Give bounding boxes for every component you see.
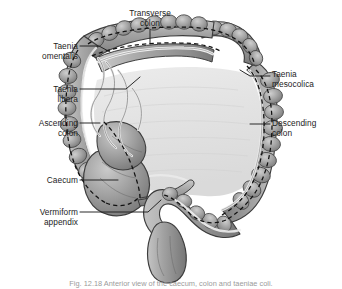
label-taenia-omentalis-line2: omentalis [42, 51, 78, 61]
label-taenia-libera: Taenialibera [6, 84, 78, 105]
label-vermiform-appendix: Vermiformappendix [2, 207, 78, 228]
label-ascending-colon-line1: Ascending [39, 118, 78, 128]
label-descending-colon-line2: colon [272, 128, 292, 138]
label-vermiform-appendix-line2: appendix [44, 217, 78, 227]
label-taenia-libera-line1: Taenia [53, 84, 78, 94]
label-ascending-colon-line2: colon [58, 128, 78, 138]
label-taenia-mesocolica: Taeniamesocolica [272, 69, 342, 90]
figure-caption: Fig. 12.18 Anterior view of the caecum, … [0, 279, 342, 288]
label-taenia-mesocolica-line2: mesocolica [272, 79, 314, 89]
label-taenia-omentalis-line1: Taenia [53, 41, 78, 51]
label-descending-colon-line1: Descending [272, 118, 316, 128]
label-descending-colon: Descendingcolon [272, 118, 342, 139]
anatomy-figure: Transversecolon Taeniaomentalis Taeniali… [0, 0, 342, 289]
label-taenia-omentalis: Taeniaomentalis [6, 41, 78, 62]
label-caecum: Caecum [6, 175, 78, 185]
label-taenia-libera-line2: libera [57, 94, 78, 104]
label-vermiform-appendix-line1: Vermiform [40, 207, 78, 217]
rectum-segment [148, 222, 187, 283]
label-transverse-colon-line2: colon [140, 18, 160, 28]
label-transverse-colon-line1: Transverse [129, 8, 171, 18]
label-ascending-colon: Ascendingcolon [2, 118, 78, 139]
label-caecum-line1: Caecum [47, 175, 78, 185]
label-transverse-colon: Transversecolon [106, 8, 194, 29]
label-taenia-mesocolica-line1: Taenia [272, 69, 297, 79]
